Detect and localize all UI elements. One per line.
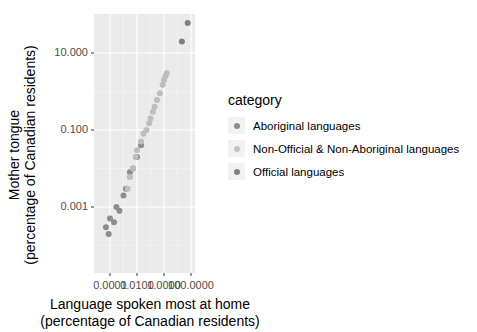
data-point — [143, 127, 149, 133]
data-point — [154, 97, 160, 103]
data-point — [106, 231, 112, 237]
x-axis-title-line1: Language spoken most at home — [0, 296, 300, 312]
legend: category Aboriginal languages Non-Offici… — [228, 92, 459, 183]
legend-key — [228, 163, 245, 180]
y-axis-title-line2: (percentage of Canadian residents) — [22, 40, 38, 270]
data-point — [130, 166, 136, 172]
data-point — [185, 20, 191, 26]
data-point — [103, 224, 109, 230]
data-point — [134, 147, 140, 153]
dot-icon — [234, 169, 240, 175]
legend-key — [228, 117, 245, 134]
data-point — [127, 174, 133, 180]
legend-label: Non-Official & Non-Aboriginal languages — [253, 143, 459, 155]
legend-label: Official languages — [253, 166, 344, 178]
x-tick-label: 100.0000 — [168, 279, 214, 291]
y-tick-label: 10.000 — [32, 46, 88, 58]
y-tick-label: 0.001 — [32, 200, 88, 212]
legend-item-official: Official languages — [228, 160, 459, 183]
data-point — [157, 90, 163, 96]
data-point — [121, 192, 127, 198]
data-point — [148, 115, 154, 121]
y-axis-title: Mother tongue (percentage of Canadian re… — [6, 40, 38, 270]
data-point — [164, 70, 170, 76]
data-point — [152, 104, 158, 110]
legend-item-non-official: Non-Official & Non-Aboriginal languages — [228, 137, 459, 160]
data-point — [111, 219, 117, 225]
data-point — [133, 154, 139, 160]
dot-icon — [234, 146, 240, 152]
x-axis-title-line2: (percentage of Canadian residents) — [0, 313, 300, 329]
data-point — [125, 186, 131, 192]
legend-label: Aboriginal languages — [253, 120, 360, 132]
y-axis-title-line1: Mother tongue — [6, 40, 22, 270]
dot-icon — [234, 123, 240, 129]
legend-item-aboriginal: Aboriginal languages — [228, 114, 459, 137]
data-point — [138, 139, 144, 145]
data-point — [116, 208, 122, 214]
legend-key — [228, 140, 245, 157]
legend-title: category — [228, 92, 459, 108]
y-tick-label: 0.100 — [32, 123, 88, 135]
data-point — [179, 38, 185, 44]
